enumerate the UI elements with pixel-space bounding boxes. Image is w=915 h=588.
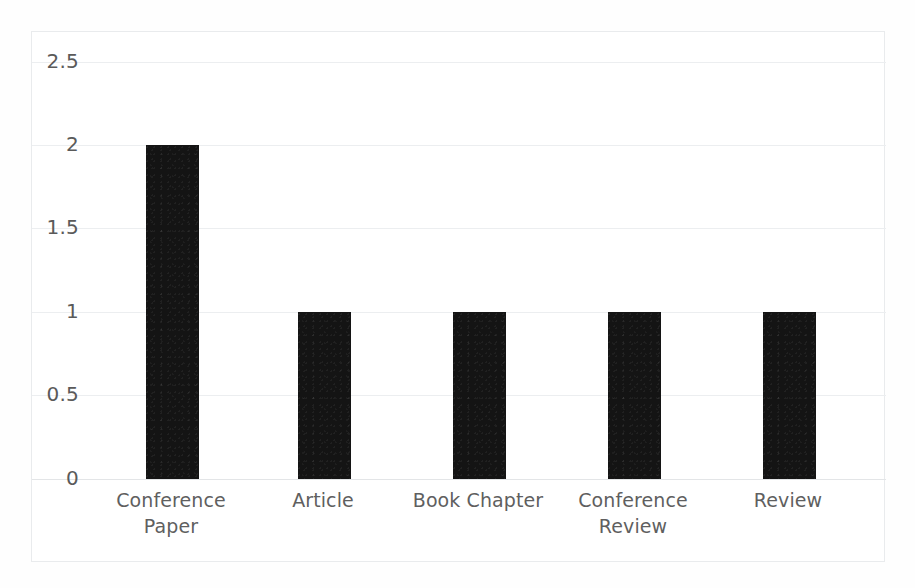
x-axis-tick-book-chapter: Book Chapter [403,487,553,513]
y-axis-tick-1.5: 1.5 [27,217,79,237]
bar-article[interactable] [298,312,351,479]
y-axis-tick-2: 2 [27,134,79,154]
gridline-0-baseline [32,479,886,480]
bar-review[interactable] [763,312,816,479]
bar-conference-paper[interactable] [146,145,199,479]
x-axis-tick-review: Review [713,487,863,513]
plot-area [31,31,885,562]
gridline-2.5 [32,62,886,63]
x-axis-tick-conference-paper: Conference Paper [96,487,246,539]
y-axis-tick-2.5: 2.5 [27,51,79,71]
y-axis-tick-1: 1 [27,301,79,321]
x-axis-tick-conference-review: Conference Review [558,487,708,539]
x-axis-tick-article: Article [248,487,398,513]
y-axis-tick-0.5: 0.5 [27,384,79,404]
y-axis-tick-0: 0 [27,468,79,488]
bar-conference-review[interactable] [608,312,661,479]
bar-book-chapter[interactable] [453,312,506,479]
bar-chart-figure: 2.5 2 1.5 1 0.5 0 Conference Paper Artic… [0,0,915,588]
